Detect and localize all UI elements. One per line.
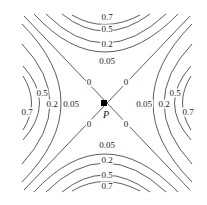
label-right-0.05: 0.05: [135, 100, 153, 109]
label-left-0.2: 0.2: [45, 100, 58, 109]
label-bottom-0.05: 0.05: [98, 141, 116, 150]
label-left-0.05: 0.05: [62, 100, 80, 109]
label-top-0.5: 0.5: [100, 25, 113, 34]
label-zero-ll: 0: [86, 120, 93, 129]
contour-right-0.7: [183, 76, 192, 130]
label-zero-ul: 0: [86, 78, 93, 87]
label-left-0.5: 0.5: [35, 89, 48, 98]
label-left-0.7: 0.7: [20, 108, 33, 117]
label-bottom-0.5: 0.5: [100, 171, 113, 180]
label-right-0.5: 0.5: [168, 89, 181, 98]
label-top-0.2: 0.2: [100, 40, 113, 49]
contour-left-0.7: [23, 76, 32, 130]
label-zero-ur: 0: [123, 78, 130, 87]
saddle-point-marker: [101, 100, 107, 106]
label-top-0.7: 0.7: [100, 13, 113, 22]
label-top-0.05: 0.05: [98, 57, 116, 66]
label-zero-lr: 0: [123, 120, 130, 129]
label-bottom-0.2: 0.2: [100, 156, 113, 165]
saddle-point-label: P: [103, 109, 109, 120]
label-right-0.2: 0.2: [157, 100, 170, 109]
label-bottom-0.7: 0.7: [100, 182, 113, 191]
label-right-0.7: 0.7: [181, 108, 194, 117]
